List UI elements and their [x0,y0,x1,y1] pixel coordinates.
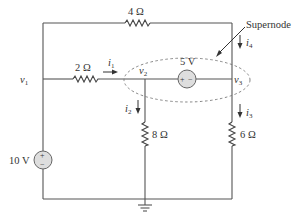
resistor-2ohm [73,76,100,82]
node-label-v1: v1 [20,74,29,87]
wires [43,23,232,205]
current-label-i2: i2 [125,103,132,116]
resistor-8ohm [142,122,148,146]
node-label-v2: v2 [139,65,148,78]
current-label-i1: i1 [108,57,115,70]
node-label-v3: v3 [234,74,243,87]
voltage-source-10v: + − [34,151,52,169]
voltage-source-5v: + − [178,70,196,88]
label-6ohm: 6 Ω [240,129,256,140]
plus-sign: + [40,151,45,160]
supernode-label: Supernode [246,19,291,30]
plus-sign: + [180,75,185,84]
minus-sign: − [40,160,45,169]
resistor-6ohm [229,122,235,146]
arrowhead-right-icon [112,70,118,75]
label-2ohm: 2 Ω [75,62,91,73]
label-4ohm: 4 Ω [128,6,144,17]
arrowhead-down-icon [238,112,243,118]
arrowhead-down-icon [238,43,243,49]
current-label-i3: i3 [246,107,253,120]
label-8ohm: 8 Ω [152,129,168,140]
circuit-diagram: 4 Ω 2 Ω 8 Ω 6 Ω + − 10 V + − 5 V Superno… [0,0,296,221]
current-label-i4: i4 [246,37,253,50]
resistor-4ohm [125,20,150,26]
ground-icon [138,205,152,211]
label-10v: 10 V [9,155,30,166]
arrowhead-down-icon [136,108,141,114]
minus-sign: − [188,75,193,84]
